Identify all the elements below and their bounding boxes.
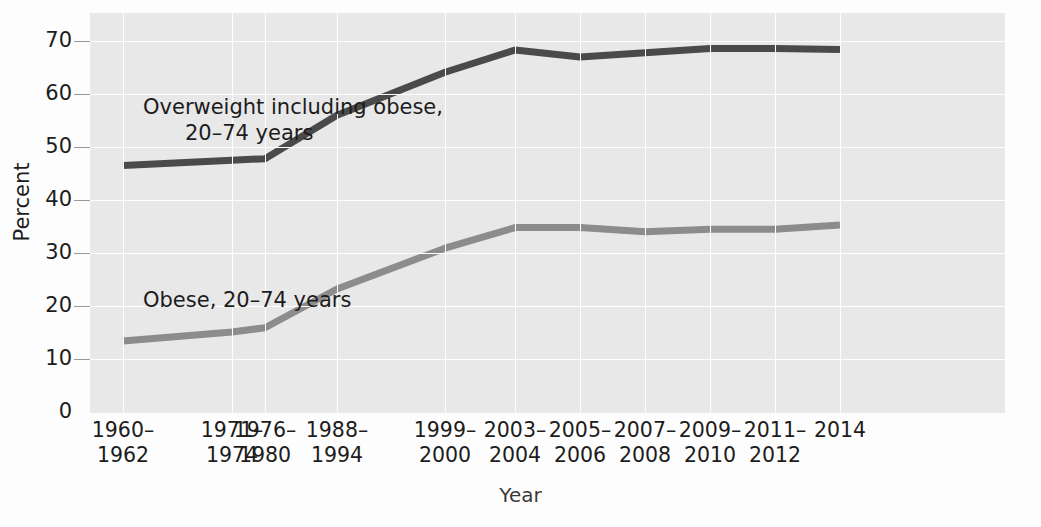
gridline-x-2 bbox=[265, 13, 266, 412]
y-tick-label-20: 20 bbox=[30, 295, 72, 316]
x-tick-label-line2: 2012 bbox=[730, 443, 820, 468]
tick-mark-60 bbox=[74, 94, 90, 95]
gridline-y-30 bbox=[90, 253, 1005, 254]
gridline-x-7 bbox=[645, 13, 646, 412]
gridline-y-10 bbox=[90, 359, 1005, 360]
annotation-overweight-line1: Overweight including obese, bbox=[143, 95, 443, 119]
x-axis-title: Year bbox=[0, 483, 1041, 507]
tick-mark-30 bbox=[74, 253, 90, 254]
tick-mark-50 bbox=[74, 147, 90, 148]
annotation-overweight-line2: 20–74 years bbox=[143, 120, 443, 146]
chart-figure: 706050403020100 Percent 1960–19621971–19… bbox=[0, 0, 1041, 527]
gridline-x-9 bbox=[775, 13, 776, 412]
y-tick-label-10: 10 bbox=[30, 348, 72, 369]
y-axis-title: Percent bbox=[10, 132, 34, 272]
y-tick-label-40: 40 bbox=[30, 189, 72, 210]
gridline-y-70 bbox=[90, 41, 1005, 42]
y-tick-label-30: 30 bbox=[30, 242, 72, 263]
gridline-x-0 bbox=[123, 13, 124, 412]
gridline-x-4 bbox=[445, 13, 446, 412]
gridline-x-6 bbox=[580, 13, 581, 412]
gridline-x-1 bbox=[232, 13, 233, 412]
annotation-obese-label: Obese, 20–74 years bbox=[143, 288, 351, 312]
x-tick-label-line2: 1962 bbox=[78, 443, 168, 468]
annotation-obese-series: Obese, 20–74 years bbox=[143, 287, 351, 313]
y-tick-label-70: 70 bbox=[30, 30, 72, 51]
x-tick-label-line1: 2014 bbox=[795, 418, 885, 443]
x-tick-label-line1: 1960– bbox=[78, 418, 168, 443]
x-tick-label-3: 1988–1994 bbox=[292, 418, 382, 468]
y-tick-label-60: 60 bbox=[30, 83, 72, 104]
x-tick-label-line2: 1994 bbox=[292, 443, 382, 468]
gridline-x-5 bbox=[515, 13, 516, 412]
series-lines bbox=[90, 13, 1005, 412]
gridline-x-8 bbox=[710, 13, 711, 412]
gridline-y-40 bbox=[90, 200, 1005, 201]
annotation-overweight-series: Overweight including obese, 20–74 years bbox=[143, 94, 443, 146]
gridline-y-0 bbox=[90, 412, 1005, 413]
line-obese bbox=[123, 225, 840, 341]
x-axis-labels: 1960–19621971–19741976–19801988–19941999… bbox=[0, 418, 1041, 476]
plot-area bbox=[90, 13, 1005, 412]
tick-mark-20 bbox=[74, 306, 90, 307]
y-tick-label-50: 50 bbox=[30, 136, 72, 157]
x-tick-label-0: 1960–1962 bbox=[78, 418, 168, 468]
gridline-x-3 bbox=[337, 13, 338, 412]
x-tick-label-10: 2014 bbox=[795, 418, 885, 443]
tick-mark-10 bbox=[74, 359, 90, 360]
tick-mark-40 bbox=[74, 200, 90, 201]
x-tick-label-line1: 1988– bbox=[292, 418, 382, 443]
gridline-x-10 bbox=[840, 13, 841, 412]
gridline-y-50 bbox=[90, 147, 1005, 148]
tick-mark-70 bbox=[74, 41, 90, 42]
